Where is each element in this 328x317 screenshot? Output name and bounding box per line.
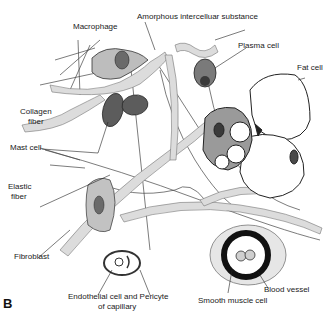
fibroblast-cell (86, 178, 115, 231)
label-smooth-muscle-cell: Smooth muscle cell (198, 296, 267, 305)
connective-tissue-diagram: Amorphous intercelluar substance Macroph… (0, 0, 328, 317)
mast-cells (99, 91, 150, 129)
label-endothelial-line2: of capillary (98, 302, 136, 311)
label-endothelial-line1: Endothelial cell and Pericyte (68, 292, 169, 301)
plasma-cell (194, 59, 216, 87)
label-amorphous-substance: Amorphous intercelluar substance (137, 12, 258, 21)
label-collagen-fiber-line2: fiber (28, 117, 44, 126)
label-elastic-fiber-line2: fiber (11, 192, 27, 201)
label-elastic-fiber-line1: Elastic (8, 182, 32, 191)
label-blood-vessel: Blood vessel (264, 285, 309, 294)
panel-label: B (3, 296, 12, 311)
label-mast-cell: Mast cell (10, 143, 42, 152)
blood-vessel (210, 225, 286, 285)
label-fibroblast: Fibroblast (14, 252, 49, 261)
label-plasma-cell: Plasma cell (238, 41, 279, 50)
label-macrophage: Macrophage (73, 22, 117, 31)
label-collagen-fiber-line1: Collagen (20, 107, 52, 116)
fat-cells (203, 74, 310, 198)
capillary (104, 251, 140, 275)
label-fat-cell: Fat cell (297, 63, 323, 72)
